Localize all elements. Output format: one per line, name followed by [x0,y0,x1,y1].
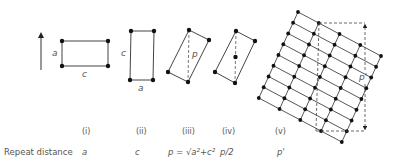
repeat-distance-label: Repeat distance [4,147,73,157]
lattice-node [302,53,306,57]
numeral-ii: (ii) [136,127,147,136]
lattice-node [303,107,307,111]
lattice-node [324,118,328,122]
lattice-node [369,76,373,80]
lattice-node [349,65,353,69]
panel-ii-cell [128,29,156,82]
lattice-node [358,43,362,47]
lattice-node [308,97,312,101]
panel-iv-cell [213,29,257,85]
lattice-node [323,64,327,68]
lattice-diagram: a c c a p p' (i) (ii) (iii) (iv) (v) Rep… [0,0,396,163]
lattice-node [262,85,266,89]
lattice-node [283,96,287,100]
lattice-node [287,86,291,90]
lattice-node [360,97,364,101]
panel-iii-edge-p: p [191,49,198,59]
lattice-node [281,42,285,46]
panel-i-edge-a: a [52,48,58,58]
lattice-node [338,32,342,36]
lattice-node [339,86,343,90]
lattice-node [379,54,383,58]
lattice-node [312,32,316,36]
panel-i-edge-c: c [82,69,87,79]
lattice-node [318,75,322,79]
lattice-node [267,75,271,79]
lattice-node [272,64,276,68]
lattice-node [344,75,348,79]
lattice-node [340,140,344,144]
numeral-i: (i) [82,127,90,136]
lattice-node [257,96,261,100]
lattice-node [353,54,357,58]
repeat-v: p' [276,147,285,157]
lattice-node [350,119,354,123]
repeat-iv: p/2 [219,147,234,157]
lattice-node [298,118,302,122]
lattice-node [278,107,282,111]
lattice-node [328,54,332,58]
lattice-node [286,32,290,36]
lattice-node [313,86,317,90]
repeat-ii: c [135,147,140,157]
numeral-iv: (iv) [222,127,235,136]
numeral-v: (v) [275,127,286,136]
lattice-node [291,21,295,25]
lattice-node [355,108,359,112]
lattice-node [374,65,378,69]
panel-i-cell [60,39,110,68]
lattice-node [307,43,311,47]
panel-v-edge-p-prime: p' [358,72,367,82]
lattice-node [277,53,281,57]
lattice-node [329,108,333,112]
panel-iii-cell [166,28,211,84]
lattice-node [297,64,301,68]
lattice-node [334,97,338,101]
panel-ii-edge-c: c [121,48,126,58]
lattice-node [333,43,337,47]
numeral-iii: (iii) [182,127,195,136]
repeat-i: a [82,147,87,157]
panel-ii-edge-a: a [138,83,144,93]
lattice-node [292,75,296,79]
repeat-iii: p = √a²+c² [167,147,216,157]
lattice-node [296,10,300,14]
